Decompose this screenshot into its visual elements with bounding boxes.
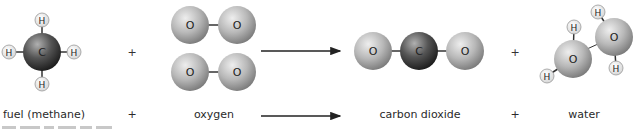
oxygen-letter: O: [233, 66, 242, 79]
label-plus-2: +: [510, 108, 519, 121]
hydrogen-letter: H: [39, 80, 46, 90]
oxygen-letter: O: [369, 45, 378, 58]
label-water: water: [568, 108, 599, 121]
hydrogen-letter: H: [571, 23, 578, 33]
oxygen-letter: O: [569, 53, 578, 66]
methane-molecule: C H H H H: [2, 13, 81, 91]
reaction-svg: C H H H H + O O O O O C O +: [0, 0, 643, 132]
hydrogen-letter: H: [71, 48, 78, 58]
oxygen-letter: O: [233, 19, 242, 32]
carbon-letter: C: [415, 45, 423, 58]
oxygen-letter: O: [461, 45, 470, 58]
hydrogen-letter: H: [544, 72, 551, 82]
cropped-caption: [2, 126, 122, 132]
plus-sign: +: [127, 46, 136, 59]
label-carbon-dioxide: carbon dioxide: [379, 108, 460, 121]
oxygen-letter: O: [186, 19, 195, 32]
carbon-dioxide-molecule: O C O: [354, 32, 484, 70]
label-plus-1: +: [127, 108, 136, 121]
plus-sign: +: [510, 46, 519, 59]
hydrogen-letter: H: [613, 64, 620, 74]
reaction-diagram: C H H H H + O O O O O C O +: [0, 0, 643, 132]
oxygen-letter: O: [610, 31, 619, 44]
oxygen-molecules: O O O O: [171, 6, 256, 91]
hydrogen-letter: H: [39, 16, 46, 26]
hydrogen-letter: H: [595, 8, 602, 18]
label-oxygen: oxygen: [194, 108, 234, 121]
water-molecules: O O H H H H: [540, 5, 633, 83]
oxygen-letter: O: [186, 66, 195, 79]
carbon-letter: C: [38, 46, 46, 59]
hydrogen-letter: H: [6, 48, 13, 58]
label-methane: fuel (methane): [3, 108, 85, 121]
